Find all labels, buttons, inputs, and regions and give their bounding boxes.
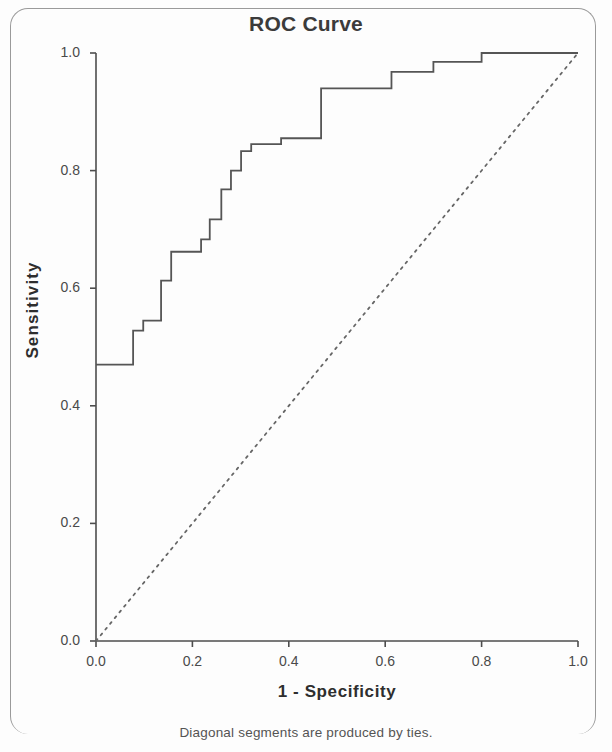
y-axis-title: Sensitivity xyxy=(23,240,43,380)
y-axis-ticks xyxy=(90,53,96,641)
chart-page: ROC Curve 0.00.20.40.60.81.0 0.00.20.40.… xyxy=(0,0,612,752)
x-tick-label: 0.6 xyxy=(362,653,408,669)
reference-diagonal-line xyxy=(96,53,578,641)
x-tick-label: 0.8 xyxy=(459,653,505,669)
x-axis-ticks xyxy=(96,641,578,647)
x-tick-label: 0.2 xyxy=(169,653,215,669)
y-tick-label: 0.4 xyxy=(40,397,80,413)
y-tick-label: 0.8 xyxy=(40,162,80,178)
x-tick-label: 0.0 xyxy=(73,653,119,669)
x-tick-label: 1.0 xyxy=(555,653,601,669)
roc-plot-svg xyxy=(0,0,612,752)
x-tick-label: 0.4 xyxy=(266,653,312,669)
x-axis-title: 1 - Specificity xyxy=(96,682,578,702)
y-tick-label: 0.6 xyxy=(40,279,80,295)
y-tick-label: 0.0 xyxy=(40,632,80,648)
y-tick-label: 0.2 xyxy=(40,514,80,530)
chart-footnote: Diagonal segments are produced by ties. xyxy=(0,725,612,740)
roc-curve-line xyxy=(96,53,578,365)
y-tick-label: 1.0 xyxy=(40,44,80,60)
